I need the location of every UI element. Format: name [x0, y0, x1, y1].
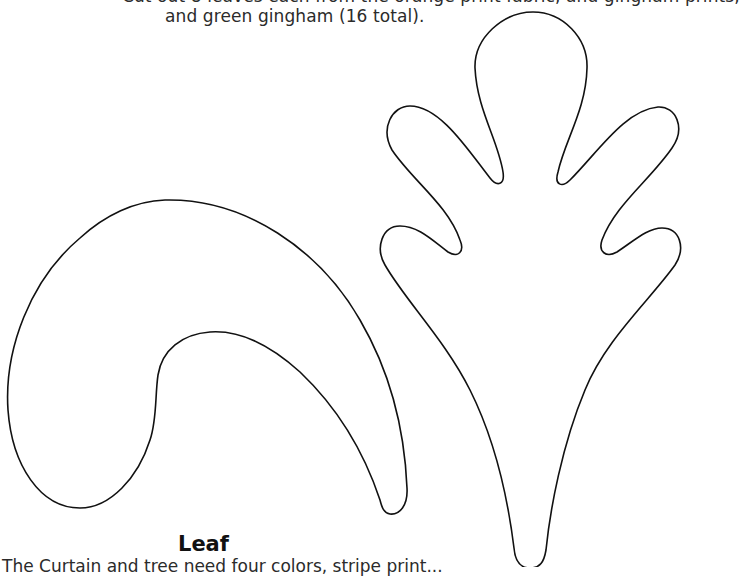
oak-leaf-outline: [380, 12, 680, 567]
curled-leaf-outline: [8, 200, 407, 514]
leaf-caption-description: The Curtain and tree need four colors, s…: [2, 556, 443, 576]
leaf-caption-title: Leaf: [178, 532, 229, 556]
